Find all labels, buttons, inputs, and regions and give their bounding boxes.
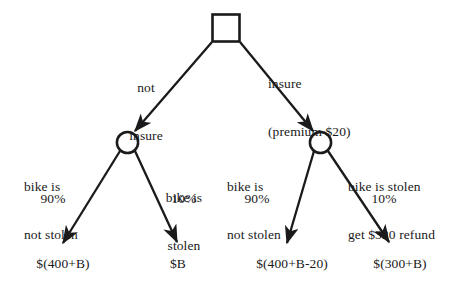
leaf-payoff-3: $(400+B-20) xyxy=(240,256,344,272)
leaf-payoff-4: $(300+B) xyxy=(358,256,442,272)
branch-label-insure-line1: insure xyxy=(268,76,390,92)
probability-left-stolen: 10% xyxy=(155,191,213,207)
outcome-label-right-stolen-line2: get $320 refund xyxy=(348,227,472,243)
outcome-label-left-not-stolen-line2: not stolen xyxy=(24,227,104,243)
branch-label-insure-line2: (premium $20) xyxy=(268,124,390,140)
probability-right-stolen: 10% xyxy=(355,191,413,207)
probability-left-not-stolen: 90% xyxy=(22,191,84,207)
outcome-label-right-not-stolen-line2: not stolen xyxy=(227,227,307,243)
leaf-payoff-1: $(400+B) xyxy=(22,256,104,272)
branch-label-not-insure: not insure xyxy=(110,48,182,175)
branch-label-not-insure-line1: not xyxy=(110,80,182,96)
branch-label-not-insure-line2: insure xyxy=(110,128,182,144)
probability-right-not-stolen: 90% xyxy=(226,191,288,207)
root-decision-node xyxy=(213,15,240,42)
leaf-payoff-2: $B xyxy=(150,256,206,272)
decision-tree-diagram: not insure insure (premium $20) bike is … xyxy=(0,0,472,284)
outcome-label-left-stolen-line2: stolen xyxy=(151,238,217,254)
